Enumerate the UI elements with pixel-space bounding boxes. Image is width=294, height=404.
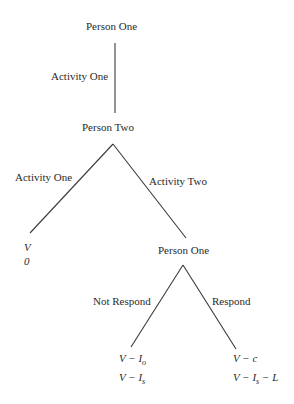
edge-label-respond: Respond bbox=[212, 295, 251, 307]
payoff-leaf3-p1: V − c bbox=[233, 352, 257, 364]
payoff-leaf2-p1-main: V − I bbox=[119, 352, 142, 364]
payoff-leaf3-p2: V − Is − L bbox=[233, 371, 278, 383]
payoff-leaf3-p2-main: V − I bbox=[233, 371, 256, 383]
tree-lines bbox=[0, 0, 294, 404]
node-person-two: Person Two bbox=[82, 121, 134, 133]
edge-second-right bbox=[113, 144, 186, 238]
edge-label-not-respond: Not Respond bbox=[93, 295, 151, 307]
edge-second-left bbox=[30, 144, 113, 233]
edge-third-right bbox=[183, 265, 236, 349]
payoff-leaf3-p2-tail: − L bbox=[259, 371, 278, 383]
edge-label-activity-one-top: Activity One bbox=[51, 70, 108, 82]
payoff-leaf2-p1-sub: o bbox=[142, 358, 146, 367]
payoff-leaf1-p1: V bbox=[24, 241, 31, 253]
edge-label-activity-two: Activity Two bbox=[149, 175, 207, 187]
payoff-leaf2-p2-main: V − I bbox=[119, 371, 142, 383]
node-person-one-third: Person One bbox=[158, 244, 209, 256]
payoff-leaf1-p2: 0 bbox=[24, 255, 30, 267]
payoff-leaf2-p2-sub: s bbox=[142, 377, 145, 386]
edge-label-activity-one-left: Activity One bbox=[15, 171, 72, 183]
node-person-one-root: Person One bbox=[86, 20, 137, 32]
payoff-leaf2-p1: V − Io bbox=[119, 352, 146, 364]
payoff-leaf2-p2: V − Is bbox=[119, 371, 145, 383]
